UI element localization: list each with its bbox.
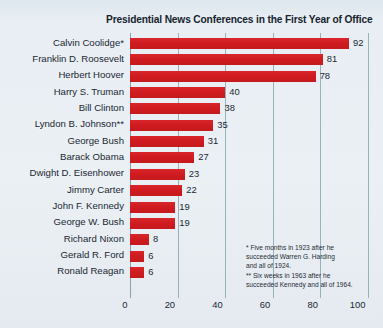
bar-row: Franklin D. Roosevelt81 — [0, 52, 383, 68]
bar-value-label: 92 — [353, 37, 363, 48]
bar — [130, 87, 225, 98]
bar — [130, 103, 220, 114]
bar-row: George W. Bush19 — [0, 215, 383, 231]
bar — [130, 71, 316, 82]
bar-value-label: 81 — [327, 53, 337, 64]
bar — [130, 54, 323, 65]
bar-category-label: Dwight D. Eisenhower — [30, 167, 124, 178]
bar-category-label: Jimmy Carter — [67, 184, 124, 195]
bar-value-label: 23 — [189, 168, 199, 179]
bar — [130, 267, 144, 278]
bar — [130, 234, 149, 245]
footnote-line: succeeded Kennedy and all of 1964. — [246, 280, 380, 289]
x-tick-label: 80 — [307, 299, 320, 310]
x-tick-label: 0 — [122, 299, 130, 310]
footnote-line: * Five months in 1923 after he — [246, 243, 380, 252]
bar-value-label: 8 — [153, 233, 158, 244]
bar — [130, 185, 182, 196]
bar — [130, 251, 144, 262]
bar-value-label: 35 — [217, 119, 227, 130]
bar-category-label: Gerald R. Ford — [61, 249, 124, 260]
bar — [130, 38, 349, 49]
bar-category-label: George Bush — [67, 135, 124, 146]
chart-footnotes: * Five months in 1923 after hesucceeded … — [246, 243, 380, 289]
bar-value-label: 78 — [320, 70, 330, 81]
chart-container: Presidential News Conferences in the Fir… — [0, 0, 383, 328]
bar-category-label: Barack Obama — [60, 151, 124, 162]
x-axis: 020406080100 — [0, 299, 383, 315]
bar-category-label: Harry S. Truman — [54, 86, 124, 97]
bar — [130, 169, 185, 180]
bar-category-label: Calvin Coolidge* — [53, 37, 124, 48]
bar-row: Herbert Hoover78 — [0, 68, 383, 84]
bar-value-label: 40 — [229, 86, 239, 97]
bar-category-label: Bill Clinton — [79, 102, 124, 113]
x-tick-label: 20 — [165, 299, 178, 310]
bar-category-label: Lyndon B. Johnson** — [35, 118, 124, 129]
bar — [130, 202, 175, 213]
x-tick-label: 40 — [212, 299, 225, 310]
bar-value-label: 19 — [179, 201, 189, 212]
footnote-line: ** Six weeks in 1963 after he — [246, 271, 380, 280]
bar-row: Dwight D. Eisenhower23 — [0, 166, 383, 182]
bar-value-label: 38 — [224, 102, 234, 113]
bar-value-label: 27 — [198, 151, 208, 162]
bar-value-label: 22 — [186, 184, 196, 195]
bar-row: Harry S. Truman40 — [0, 85, 383, 101]
bar — [130, 120, 213, 131]
bar-row: Lyndon B. Johnson**35 — [0, 117, 383, 133]
bar-row: John F. Kennedy19 — [0, 199, 383, 215]
bar — [130, 152, 194, 163]
bar-value-label: 6 — [148, 266, 153, 277]
x-tick-label: 60 — [260, 299, 273, 310]
bar-category-label: George W. Bush — [54, 216, 124, 227]
bar-category-label: Franklin D. Roosevelt — [32, 53, 124, 64]
bar-row: George Bush31 — [0, 134, 383, 150]
bar-category-label: Herbert Hoover — [58, 69, 124, 80]
footnote-line: and all of 1924. — [246, 261, 380, 270]
x-tick-label: 100 — [350, 299, 368, 310]
bar-row: Bill Clinton38 — [0, 101, 383, 117]
bar — [130, 136, 204, 147]
bar-value-label: 31 — [208, 135, 218, 146]
bar-category-label: Richard Nixon — [64, 233, 124, 244]
bar-row: Barack Obama27 — [0, 150, 383, 166]
bar-category-label: Ronald Reagan — [57, 265, 124, 276]
bar-value-label: 19 — [179, 217, 189, 228]
bar-row: Calvin Coolidge*92 — [0, 36, 383, 52]
footnote-line: succeeded Warren G. Harding — [246, 252, 380, 261]
bar — [130, 218, 175, 229]
bar-value-label: 6 — [148, 250, 153, 261]
bar-row: Jimmy Carter22 — [0, 183, 383, 199]
bar-category-label: John F. Kennedy — [53, 200, 124, 211]
